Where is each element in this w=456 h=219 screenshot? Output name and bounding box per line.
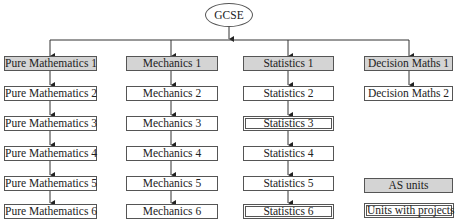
unit-pure-mathematics-1: Pure Mathematics 1	[4, 56, 97, 71]
unit-mechanics-2: Mechanics 2	[126, 86, 218, 101]
gcse-node: GCSE	[205, 3, 253, 27]
unit-pure-mathematics-6: Pure Mathematics 6	[4, 204, 97, 219]
unit-decision-maths-2: Decision Maths 2	[364, 86, 453, 101]
unit-statistics-5: Statistics 5	[243, 176, 334, 191]
unit-statistics-4: Statistics 4	[243, 146, 334, 161]
unit-pure-mathematics-2: Pure Mathematics 2	[4, 86, 97, 101]
unit-mechanics-6: Mechanics 6	[126, 204, 218, 219]
unit-mechanics-4: Mechanics 4	[126, 146, 218, 161]
unit-statistics-6: Statistics 6	[243, 204, 334, 219]
legend-as-units: AS units	[364, 178, 453, 193]
unit-pure-mathematics-5: Pure Mathematics 5	[4, 176, 97, 191]
unit-statistics-3: Statistics 3	[243, 116, 334, 131]
unit-pure-mathematics-4: Pure Mathematics 4	[4, 146, 97, 161]
unit-statistics-2: Statistics 2	[243, 86, 334, 101]
unit-statistics-1: Statistics 1	[243, 56, 334, 71]
unit-pure-mathematics-3: Pure Mathematics 3	[4, 116, 97, 131]
unit-mechanics-1: Mechanics 1	[126, 56, 218, 71]
unit-decision-maths-1: Decision Maths 1	[364, 56, 453, 71]
unit-mechanics-3: Mechanics 3	[126, 116, 218, 131]
legend-units-with-projects: Units with projects	[364, 203, 454, 218]
unit-mechanics-5: Mechanics 5	[126, 176, 218, 191]
